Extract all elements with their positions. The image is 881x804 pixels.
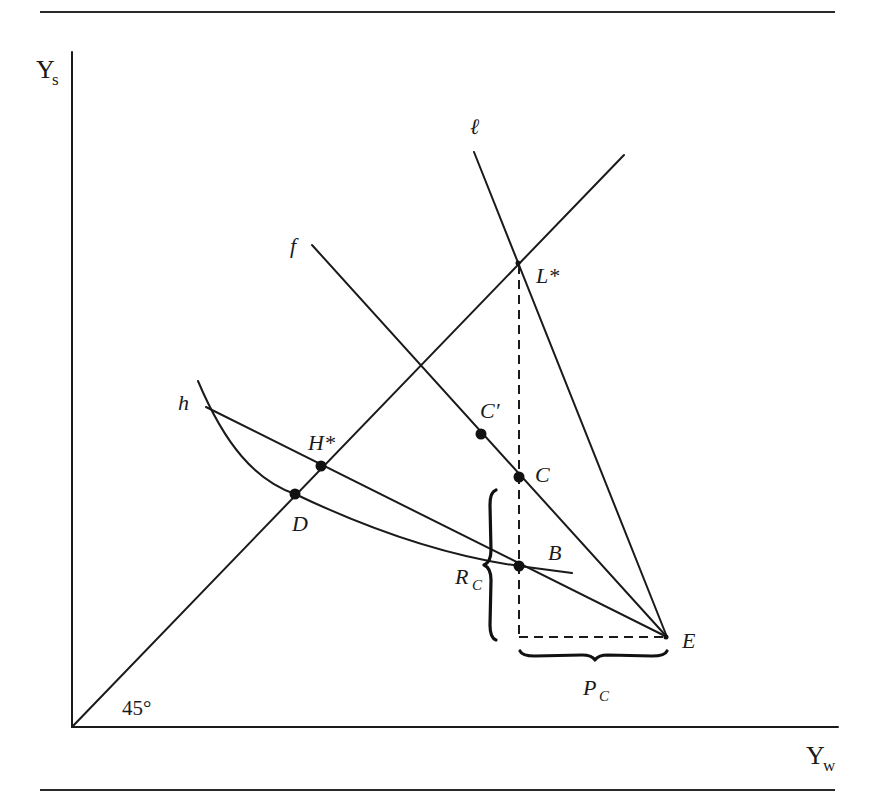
x-axis-label-subscript: w	[823, 756, 836, 775]
y-axis-label-subscript: s	[52, 70, 59, 89]
brace-r-c-subscript: C	[472, 577, 483, 593]
brace-r-c-label: R	[454, 564, 469, 589]
line-h	[206, 407, 667, 637]
point-b	[514, 561, 525, 572]
point-c-prime-label: C′	[480, 398, 501, 423]
economic-diagram: Y s Y w 45° ℓ f h L* H* D C′ C B E R C P…	[0, 0, 881, 804]
point-h-star	[316, 461, 327, 472]
point-b-label: B	[548, 540, 561, 565]
point-e-label: E	[681, 628, 696, 653]
line-h-label: h	[178, 390, 189, 415]
point-l-star-label: L*	[535, 263, 559, 288]
point-c-prime	[476, 429, 487, 440]
point-c-label: C	[535, 462, 550, 487]
point-c	[514, 472, 525, 483]
brace-r-c	[484, 490, 496, 640]
brace-p-c-label: P	[582, 675, 596, 700]
line-45-degree	[72, 155, 624, 727]
point-d-label: D	[291, 511, 308, 536]
angle-label: 45°	[122, 696, 151, 720]
line-f-label: f	[290, 233, 299, 258]
point-l-star	[516, 261, 521, 266]
brace-p-c	[520, 651, 667, 660]
point-e	[664, 635, 669, 640]
point-h-star-label: H*	[307, 430, 335, 455]
line-l-label: ℓ	[470, 114, 480, 139]
point-d	[290, 489, 301, 500]
brace-p-c-subscript: C	[599, 688, 610, 704]
